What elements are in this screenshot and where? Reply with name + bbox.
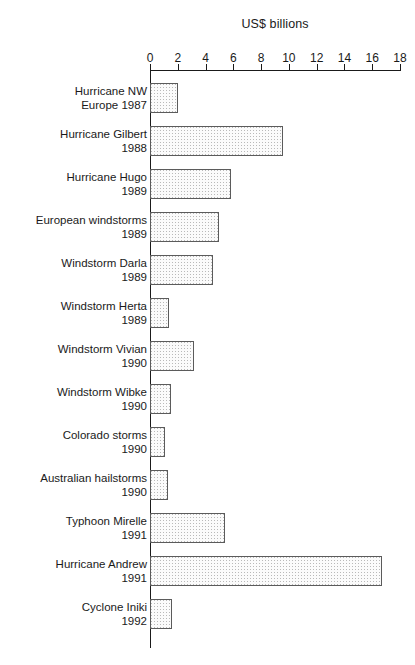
bar-row: Windstorm Wibke 1990	[0, 384, 415, 414]
bar-row: Hurricane Andrew 1991	[0, 556, 415, 586]
category-label: Windstorm Wibke 1990	[7, 386, 147, 413]
bar	[150, 599, 172, 629]
bar-row: Colorado storms 1990	[0, 427, 415, 457]
bar	[150, 384, 171, 414]
category-label: Cyclone Iniki 1992	[7, 601, 147, 628]
category-label: European windstorms 1989	[7, 214, 147, 241]
category-label: Hurricane NW Europe 1987	[7, 85, 147, 112]
bar	[150, 513, 225, 543]
bar	[150, 83, 178, 113]
x-tick-mark-6	[233, 64, 234, 71]
bar	[150, 169, 231, 199]
category-label: Windstorm Herta 1989	[7, 300, 147, 327]
bar	[150, 470, 168, 500]
x-tick-mark-0	[150, 64, 151, 71]
x-tick-mark-12	[317, 64, 318, 71]
x-tick-mark-8	[261, 64, 262, 71]
bar-row: Australian hailstorms 1990	[0, 470, 415, 500]
bar-row: Windstorm Darla 1989	[0, 255, 415, 285]
bar-rows: Hurricane NW Europe 1987Hurricane Gilber…	[0, 0, 415, 665]
bar	[150, 255, 213, 285]
bar-row: Typhoon Mirelle 1991	[0, 513, 415, 543]
x-tick-mark-10	[289, 64, 290, 71]
x-tick-mark-18	[400, 64, 401, 71]
bar-row: Cyclone Iniki 1992	[0, 599, 415, 629]
category-label: Hurricane Hugo 1989	[7, 171, 147, 198]
x-tick-mark-14	[344, 64, 345, 71]
category-label: Hurricane Andrew 1991	[7, 558, 147, 585]
bar	[150, 341, 194, 371]
x-tick-mark-4	[206, 64, 207, 71]
x-tick-mark-2	[178, 64, 179, 71]
category-label: Hurricane Gilbert 1988	[7, 128, 147, 155]
bar	[150, 556, 382, 586]
bar-row: Windstorm Herta 1989	[0, 298, 415, 328]
category-label: Typhoon Mirelle 1991	[7, 515, 147, 542]
bar	[150, 427, 165, 457]
category-label: Australian hailstorms 1990	[7, 472, 147, 499]
bar-row: Windstorm Vivian 1990	[0, 341, 415, 371]
bar-row: Hurricane Hugo 1989	[0, 169, 415, 199]
category-label: Windstorm Darla 1989	[7, 257, 147, 284]
bar	[150, 298, 169, 328]
x-tick-mark-16	[372, 64, 373, 71]
bar-row: European windstorms 1989	[0, 212, 415, 242]
category-label: Windstorm Vivian 1990	[7, 343, 147, 370]
bar-row: Hurricane NW Europe 1987	[0, 83, 415, 113]
bar	[150, 126, 283, 156]
bar-row: Hurricane Gilbert 1988	[0, 126, 415, 156]
category-label: Colorado storms 1990	[7, 429, 147, 456]
bar	[150, 212, 219, 242]
bar-chart: US$ billions 024681012141618 Hurricane N…	[0, 0, 415, 665]
